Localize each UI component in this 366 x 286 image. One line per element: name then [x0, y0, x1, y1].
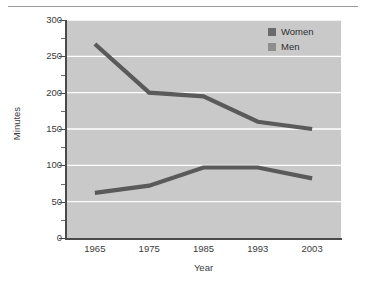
legend-item-women[interactable]: Women — [268, 25, 338, 38]
chart-figure: 050100150200250300 19651975198519932003 … — [0, 0, 366, 286]
series-line-men — [95, 168, 312, 193]
y-tick-label: 0 — [16, 233, 62, 243]
legend-label: Women — [281, 27, 314, 37]
x-axis-tick-labels: 19651975198519932003 — [66, 243, 341, 257]
y-axis-spine — [65, 20, 67, 239]
y-tick-label: 50 — [16, 197, 62, 207]
x-tick-label: 1975 — [127, 243, 171, 255]
y-tick-label: 100 — [16, 160, 62, 170]
y-tick-label: 250 — [16, 51, 62, 61]
legend-label: Men — [281, 42, 299, 52]
y-axis-title: Minutes — [11, 94, 22, 154]
y-tick-label: 200 — [16, 88, 62, 98]
x-axis-title: Year — [66, 262, 341, 273]
legend-swatch-icon — [268, 28, 276, 36]
x-axis-spine — [65, 238, 342, 240]
y-tick-label: 300 — [16, 15, 62, 25]
x-tick-label: 1993 — [236, 243, 280, 255]
y-tick-label: 150 — [16, 124, 62, 134]
x-tick-label: 1985 — [182, 243, 226, 255]
x-tick-label: 1965 — [73, 243, 117, 255]
legend-swatch-icon — [268, 43, 276, 51]
x-tick-label: 2003 — [290, 243, 334, 255]
legend-item-men[interactable]: Men — [268, 40, 338, 53]
series-lines — [95, 44, 312, 193]
chart-legend: WomenMen — [268, 25, 338, 55]
